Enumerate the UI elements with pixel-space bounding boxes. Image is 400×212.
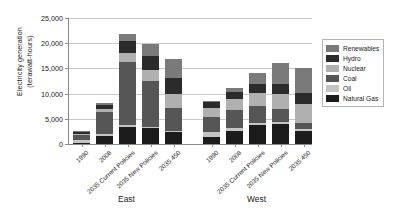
x-axis-tick (151, 144, 152, 147)
bar-west-2 (249, 73, 266, 144)
x-axis-label: 2008 (97, 149, 112, 164)
x-axis-label: 2008 (227, 149, 242, 164)
bar-segment-coal (203, 117, 220, 132)
legend-swatch-coal (326, 75, 339, 82)
legend-item: Hydro (326, 53, 379, 63)
y-axis-tick-label: 5,000 (45, 114, 63, 123)
y-axis-tick (65, 94, 69, 95)
bar-segment-natural-gas (226, 131, 243, 144)
y-axis-tick (65, 18, 69, 19)
bar-segment-nuclear (272, 94, 289, 109)
y-axis-tick-label: 15,000 (41, 64, 63, 73)
x-axis-label: 2035 New Policies (114, 149, 158, 189)
bar-segment-nuclear (142, 70, 159, 81)
legend-item: Nuclear (326, 63, 379, 73)
bar-segment-coal (165, 108, 182, 130)
gridline (69, 18, 312, 19)
bar-segment-natural-gas (295, 131, 312, 144)
x-axis-tick (258, 144, 259, 147)
legend-swatch-renewables (326, 45, 339, 52)
group-label-east: East (87, 194, 167, 204)
bar-segment-hydro (165, 78, 182, 94)
bar-east-4 (165, 59, 182, 144)
stacked-bar-chart: Electricity generation (terawatt-hours) … (0, 0, 400, 212)
plot-area: 05,00010,00015,00020,00025,000 (68, 18, 312, 145)
x-axis-label: 2035 450 (287, 149, 311, 172)
legend-label: Natural Gas (343, 95, 378, 102)
bar-segment-nuclear (295, 104, 312, 123)
bar-segment-renewables (119, 34, 136, 41)
bar-segment-nuclear (226, 99, 243, 110)
legend-swatch-natural-gas (326, 95, 339, 102)
bar-segment-coal (226, 110, 243, 128)
gridline (69, 43, 312, 44)
y-axis-tick-label: 0 (59, 140, 63, 149)
bar-segment-renewables (142, 44, 159, 56)
x-axis-label: 1990 (74, 149, 89, 164)
legend-swatch-oil (326, 85, 339, 92)
chart-legend: RenewablesHydroNuclearCoalOilNatural Gas (322, 39, 384, 107)
bar-west-3 (272, 63, 289, 144)
legend-label: Coal (343, 75, 357, 82)
bar-segment-coal (119, 62, 136, 126)
bar-segment-natural-gas (96, 136, 113, 144)
bar-west-1 (226, 88, 243, 144)
bar-segment-nuclear (165, 94, 182, 109)
bar-segment-renewables (165, 59, 182, 78)
bar-segment-natural-gas (249, 125, 266, 144)
bar-segment-natural-gas (203, 137, 220, 144)
x-axis-label: 2035 New Policies (244, 149, 288, 189)
bar-segment-renewables (249, 73, 266, 84)
bar-west-4 (295, 68, 312, 144)
y-axis-tick-label: 25,000 (41, 14, 63, 23)
x-axis-label: 1990 (204, 149, 219, 164)
bar-east-3 (142, 44, 159, 144)
bar-west-0 (203, 101, 220, 144)
bar-segment-coal (272, 109, 289, 122)
bar-segment-coal (249, 106, 266, 123)
legend-item: Renewables (326, 43, 379, 53)
bar-segment-hydro (226, 92, 243, 100)
x-axis-tick (82, 144, 83, 147)
bar-segment-natural-gas (165, 132, 182, 144)
bar-segment-hydro (272, 84, 289, 94)
group-label-west: West (217, 194, 297, 204)
legend-label: Hydro (343, 55, 361, 62)
bar-segment-hydro (142, 56, 159, 70)
y-axis-tick-label: 20,000 (41, 39, 63, 48)
y-axis-tick (65, 68, 69, 69)
legend-item: Coal (326, 73, 379, 83)
bar-segment-coal (96, 112, 113, 134)
y-axis-tick (65, 144, 69, 145)
legend-label: Nuclear (343, 65, 366, 72)
bar-segment-hydro (295, 93, 312, 104)
legend-item: Natural Gas (326, 93, 379, 103)
bar-segment-renewables (272, 63, 289, 84)
bar-segment-hydro (119, 41, 136, 53)
x-axis-tick (174, 144, 175, 147)
bar-segment-hydro (249, 84, 266, 93)
x-axis-tick (105, 144, 106, 147)
x-axis-label: 2035 450 (157, 149, 181, 172)
bar-segment-coal (142, 81, 159, 127)
bar-east-1 (96, 103, 113, 144)
bar-east-2 (119, 34, 136, 144)
y-axis-tick-label: 10,000 (41, 89, 63, 98)
x-axis-tick (281, 144, 282, 147)
bar-segment-nuclear (249, 93, 266, 106)
legend-label: Renewables (343, 45, 379, 52)
y-axis-tick (65, 43, 69, 44)
bar-segment-natural-gas (119, 127, 136, 144)
legend-swatch-nuclear (326, 65, 339, 72)
legend-label: Oil (343, 85, 351, 92)
x-axis-tick (128, 144, 129, 147)
bar-segment-nuclear (203, 108, 220, 117)
x-axis-tick (212, 144, 213, 147)
bar-east-0 (73, 131, 90, 144)
x-axis-tick (235, 144, 236, 147)
y-axis-tick (65, 119, 69, 120)
bar-segment-renewables (295, 68, 312, 93)
legend-swatch-hydro (326, 55, 339, 62)
bar-segment-natural-gas (272, 124, 289, 144)
bar-segment-natural-gas (142, 128, 159, 144)
